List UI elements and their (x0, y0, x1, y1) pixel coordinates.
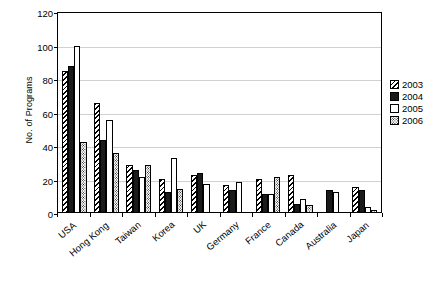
legend-swatch-icon (390, 92, 399, 101)
x-axis-label: Korea (150, 219, 176, 244)
x-axis-label: Australia (303, 219, 338, 251)
legend-swatch-icon (390, 116, 399, 125)
bar-group (90, 13, 122, 212)
legend: 2003200420052006 (390, 80, 423, 126)
bar (145, 165, 151, 212)
legend-swatch-icon (390, 80, 399, 89)
y-axis-title: No. of Programs (24, 35, 34, 185)
x-axis-label: France (243, 219, 273, 246)
y-axis-tick-label: 40 (42, 142, 53, 153)
bar (80, 142, 86, 212)
y-axis-tick-label: 80 (42, 75, 53, 86)
bar-group (284, 13, 316, 212)
bar-group (252, 13, 284, 212)
legend-label: 2003 (402, 80, 423, 90)
x-axis-label: Japan (344, 219, 371, 244)
legend-swatch-icon (390, 104, 399, 113)
legend-label: 2006 (402, 116, 423, 126)
bar (371, 210, 377, 212)
bar (236, 182, 242, 212)
x-axis-label: USA (56, 219, 78, 240)
bar-group (219, 13, 251, 212)
x-axis-labels: USAHong KongTaiwanKoreaUKGermanyFranceCa… (57, 217, 382, 282)
bars-layer (58, 13, 381, 212)
x-axis-label: UK (191, 219, 208, 236)
legend-item: 2006 (390, 116, 423, 126)
y-axis-tick-label: 120 (37, 8, 53, 19)
bar-group (187, 13, 219, 212)
legend-item: 2004 (390, 92, 423, 102)
bar (306, 205, 312, 212)
x-axis-label: Taiwan (113, 219, 143, 246)
bar (203, 184, 209, 212)
bar-group (123, 13, 155, 212)
legend-label: 2004 (402, 92, 423, 102)
bar-group (349, 13, 381, 212)
bar (113, 153, 119, 212)
bar (333, 192, 339, 212)
legend-label: 2005 (402, 104, 423, 114)
bar (177, 189, 183, 212)
y-axis-tick-label: 60 (42, 108, 53, 119)
bar-group (155, 13, 187, 212)
bar-chart: No. of Programs 020406080100120 USAHong … (0, 0, 440, 282)
y-axis-tick-label: 100 (37, 41, 53, 52)
y-axis-tick-label: 20 (42, 175, 53, 186)
legend-item: 2003 (390, 80, 423, 90)
x-axis-tick-mark (382, 213, 383, 217)
x-axis-label: Canada (273, 219, 306, 249)
legend-item: 2005 (390, 104, 423, 114)
plot-area: 020406080100120 (57, 12, 382, 213)
y-axis-tick-label: 0 (48, 209, 53, 220)
bar (274, 177, 280, 212)
bar-group (58, 13, 90, 212)
bar-group (316, 13, 348, 212)
x-axis-label: Germany (204, 219, 241, 253)
